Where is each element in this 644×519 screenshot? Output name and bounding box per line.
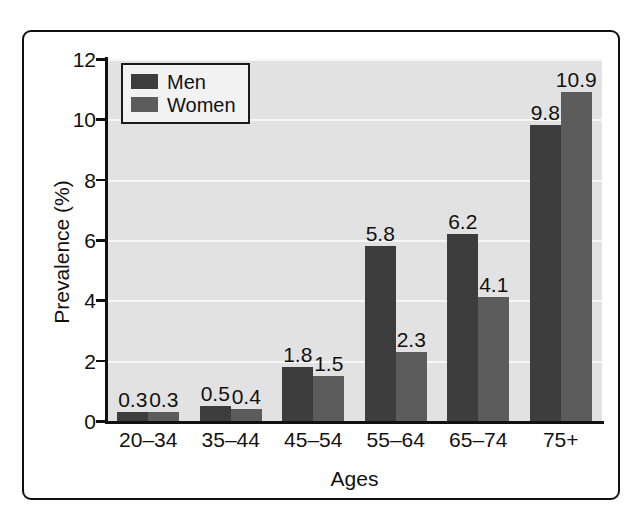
bar-chart: 024681012 Prevalence (%) Ages 0.30.30.50…: [24, 32, 618, 498]
y-axis-tick-mark: [96, 299, 106, 302]
x-axis-category-label: 55–64: [355, 428, 438, 458]
y-axis-title: Prevalence (%): [50, 102, 74, 402]
bar-value-label: 6.2: [448, 211, 477, 233]
x-axis-category-label: 35–44: [190, 428, 273, 458]
x-axis-category-label: 65–74: [437, 428, 520, 458]
bar-group: 9.810.9: [520, 59, 603, 421]
x-axis-category-label: 45–54: [272, 428, 355, 458]
bar-value-label: 9.8: [531, 102, 560, 124]
bar-value-label: 2.3: [397, 329, 426, 351]
y-axis-tick-mark: [96, 360, 106, 363]
bar-women[interactable]: 10.9: [561, 92, 592, 421]
bar-group: 5.82.3: [355, 59, 438, 421]
bar-value-label: 0.5: [201, 383, 230, 405]
bar-men[interactable]: 0.5: [200, 406, 231, 421]
figure-frame: 024681012 Prevalence (%) Ages 0.30.30.50…: [22, 30, 620, 500]
bar-women[interactable]: 0.3: [148, 412, 179, 421]
x-axis-categories: 20–3435–4445–5455–6465–7475+: [107, 428, 602, 458]
x-axis-category-label: 75+: [520, 428, 603, 458]
legend-label: Men: [167, 72, 206, 92]
y-axis-tick-label: 12: [30, 49, 96, 70]
bar-men[interactable]: 5.8: [365, 246, 396, 421]
bar-women[interactable]: 1.5: [313, 376, 344, 421]
y-axis-tick-label: 0: [30, 411, 96, 432]
legend-label: Women: [167, 95, 236, 115]
chart-legend: MenWomen: [121, 63, 250, 124]
legend-item-men[interactable]: Men: [131, 70, 236, 93]
bar-group: 6.24.1: [437, 59, 520, 421]
legend-item-women[interactable]: Women: [131, 93, 236, 116]
y-axis-tick-mark: [96, 239, 106, 242]
bar-men[interactable]: 0.3: [117, 412, 148, 421]
bar-men[interactable]: 1.8: [282, 367, 313, 421]
bar-value-label: 0.4: [232, 386, 261, 408]
bar-men[interactable]: 9.8: [530, 125, 561, 421]
bar-value-label: 1.8: [283, 344, 312, 366]
bar-value-label: 0.3: [118, 389, 147, 411]
legend-swatch-icon: [131, 97, 158, 112]
bar-value-label: 10.9: [556, 69, 597, 91]
bar-group: 1.81.5: [272, 59, 355, 421]
x-axis-title: Ages: [107, 467, 602, 491]
bar-value-label: 5.8: [366, 223, 395, 245]
y-axis-tick-mark: [96, 58, 106, 61]
bar-value-label: 1.5: [314, 353, 343, 375]
bar-women[interactable]: 4.1: [478, 297, 509, 421]
y-axis-tick-mark: [96, 118, 106, 121]
x-axis-category-label: 20–34: [107, 428, 190, 458]
x-axis-line: [105, 421, 604, 424]
legend-swatch-icon: [131, 74, 158, 89]
y-axis-tick-mark: [96, 420, 106, 423]
bar-men[interactable]: 6.2: [447, 234, 478, 421]
bar-women[interactable]: 2.3: [396, 352, 427, 421]
bar-value-label: 0.3: [149, 389, 178, 411]
y-axis-tick-mark: [96, 179, 106, 182]
bar-women[interactable]: 0.4: [231, 409, 262, 421]
bar-value-label: 4.1: [479, 274, 508, 296]
